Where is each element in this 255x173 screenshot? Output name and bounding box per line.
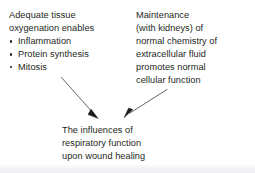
outcome-line-1: The influences of — [62, 124, 145, 137]
oxygenation-bullet-list: Inflammation Protein synthesis Mitosis — [9, 35, 94, 74]
maintenance-line-1: Maintenance — [136, 9, 217, 22]
list-item-label: Mitosis — [18, 62, 47, 72]
list-item: Inflammation — [9, 35, 94, 48]
maintenance-line-2: (with kidneys) of — [136, 22, 217, 35]
list-item: Mitosis — [9, 61, 94, 74]
arrow-oxygenation-to-outcome — [62, 78, 99, 119]
maintenance-line-6: cellular function — [136, 74, 217, 87]
maintenance-line-5: promotes normal — [136, 61, 217, 74]
list-item: Protein synthesis — [9, 48, 94, 61]
concept-box-oxygenation: Adequate tissue oxygenation enables Infl… — [9, 9, 94, 74]
outcome-line-2: respiratory function — [62, 137, 145, 150]
bullet-dot-icon — [10, 40, 12, 42]
diagram-canvas: Adequate tissue oxygenation enables Infl… — [0, 0, 255, 173]
bullet-dot-icon — [10, 53, 12, 55]
list-item-label: Protein synthesis — [18, 49, 89, 59]
oxygenation-heading-line-2: oxygenation enables — [9, 22, 94, 35]
concept-box-outcome: The influences of respiratory function u… — [62, 124, 145, 163]
maintenance-line-3: normal chemistry of — [136, 35, 217, 48]
maintenance-line-4: extracellular fluid — [136, 48, 217, 61]
page-bottom-band — [0, 164, 255, 173]
arrow-maintenance-to-outcome — [124, 90, 167, 118]
list-item-label: Inflammation — [18, 36, 71, 46]
concept-box-maintenance: Maintenance (with kidneys) of normal che… — [136, 9, 217, 86]
bullet-dot-icon — [10, 66, 12, 68]
outcome-line-3: upon wound healing — [62, 150, 145, 163]
oxygenation-heading-line-1: Adequate tissue — [9, 9, 94, 22]
